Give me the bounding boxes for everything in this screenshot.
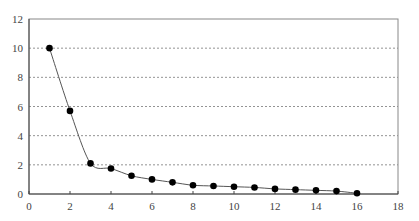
data-point-marker bbox=[251, 184, 258, 191]
data-point-marker bbox=[128, 172, 135, 179]
data-point-marker bbox=[292, 186, 299, 193]
data-series bbox=[46, 45, 360, 197]
y-tick-label: 4 bbox=[18, 130, 24, 142]
y-axis-ticks: 024681012 bbox=[12, 13, 24, 200]
data-point-marker bbox=[149, 176, 156, 183]
data-point-marker bbox=[108, 165, 115, 172]
data-point-marker bbox=[333, 188, 340, 195]
data-point-marker bbox=[67, 108, 74, 115]
x-tick-label: 10 bbox=[229, 200, 241, 212]
y-tick-label: 8 bbox=[18, 71, 24, 83]
gridlines bbox=[29, 48, 398, 165]
data-point-marker bbox=[87, 160, 94, 167]
y-tick-label: 6 bbox=[18, 101, 24, 113]
data-point-marker bbox=[46, 45, 53, 52]
x-tick-label: 16 bbox=[352, 200, 364, 212]
line-chart: 024681012141618 024681012 bbox=[0, 0, 419, 221]
data-point-marker bbox=[272, 186, 279, 193]
x-tick-label: 18 bbox=[393, 200, 405, 212]
y-tick-label: 2 bbox=[18, 159, 24, 171]
y-tick-label: 12 bbox=[12, 13, 23, 25]
x-tick-label: 12 bbox=[270, 200, 281, 212]
x-tick-label: 6 bbox=[149, 200, 155, 212]
data-point-marker bbox=[231, 183, 238, 190]
data-point-marker bbox=[354, 190, 361, 197]
x-tick-label: 0 bbox=[26, 200, 32, 212]
data-point-marker bbox=[190, 182, 197, 189]
series-line bbox=[50, 48, 358, 193]
y-tick-label: 10 bbox=[12, 42, 24, 54]
x-tick-label: 4 bbox=[108, 200, 114, 212]
data-point-marker bbox=[169, 179, 176, 186]
data-point-marker bbox=[313, 187, 320, 194]
x-tick-label: 8 bbox=[190, 200, 196, 212]
y-tick-label: 0 bbox=[18, 188, 24, 200]
x-tick-label: 2 bbox=[67, 200, 73, 212]
x-tick-label: 14 bbox=[311, 200, 323, 212]
data-point-marker bbox=[210, 183, 217, 190]
